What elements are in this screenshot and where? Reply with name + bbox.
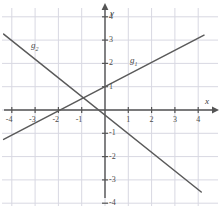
curve-label-g1-subscript: 1 — [135, 61, 138, 67]
x-axis-arrowhead — [212, 107, 219, 114]
y-tick-label: -2 — [109, 153, 116, 161]
function-lines — [4, 34, 204, 192]
x-tick-label: 1 — [126, 116, 130, 124]
y-tick-label: -3 — [109, 176, 116, 184]
curve-label-g1: g1 — [130, 56, 138, 67]
x-tick-label: 2 — [150, 116, 154, 124]
x-tick-label: 4 — [196, 116, 200, 124]
x-tick-label: -1 — [76, 116, 83, 124]
y-axis-arrowhead — [102, 3, 109, 10]
x-tick-label: -2 — [52, 116, 59, 124]
curve-label-g2: g2 — [31, 41, 39, 52]
x-tick-label: -3 — [29, 116, 36, 124]
y-tick-label: 3 — [109, 36, 113, 44]
axes-lines — [4, 3, 219, 198]
function-line-g2 — [4, 34, 202, 192]
x-axis-label: x — [205, 97, 209, 106]
x-tick-label: -4 — [6, 116, 13, 124]
y-tick-label: 2 — [109, 59, 113, 67]
x-tick-label: 3 — [173, 116, 177, 124]
y-tick-label: -4 — [109, 199, 116, 207]
coordinate-plane-figure: x y g1 g2 -4-3-2-11234-4-3-2-11234 — [0, 0, 220, 210]
curve-label-g2-subscript: 2 — [36, 46, 39, 52]
vertical-gridlines — [12, 8, 220, 206]
y-tick-label: 4 — [109, 13, 113, 21]
y-tick-label: 1 — [109, 83, 113, 91]
y-tick-label: -1 — [109, 129, 116, 137]
